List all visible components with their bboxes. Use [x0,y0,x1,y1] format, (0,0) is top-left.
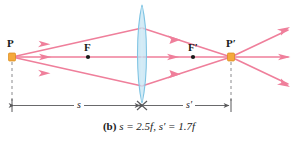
figure-caption: (b) s = 2.5f, s′ = 1.7f [0,120,298,133]
ray-group-incident [12,28,142,86]
incident-ray-upper [12,28,142,57]
front-focal-point-label: F [84,42,91,53]
incident-ray-upper-arrowhead [38,41,51,47]
optics-figure: P F F′ P′ s s′ (b) s = 2.5f, s′ = 1.7f [0,0,298,142]
image-point-marker [228,53,235,61]
refracted-ray-lower-arrowhead [168,70,181,78]
diverging-ray-lower [231,57,288,84]
object-point-marker [9,53,16,61]
caption-tag: (b) [103,120,116,132]
incident-ray-lower [12,57,142,86]
incident-ray-lower-arrowhead [38,70,51,77]
object-distance-label: s [74,100,84,110]
focal-point-back-dot [191,55,195,59]
refracted-ray-lower [142,57,231,86]
refracted-ray-upper-arrowhead [168,36,181,44]
caption-equations: s = 2.5f, s′ = 1.7f [119,120,195,132]
object-point-label: P [7,38,14,49]
ray-group-refracted [142,28,231,86]
focal-point-front-dot [86,55,90,59]
converging-lens [138,5,147,103]
back-focal-point-label: F′ [188,42,198,53]
image-distance-label: s′ [183,100,195,110]
refracted-ray-upper [142,28,231,57]
ray-group-diverging [231,27,291,87]
diverging-ray-upper [231,30,288,57]
image-point-label: P′ [226,38,236,49]
